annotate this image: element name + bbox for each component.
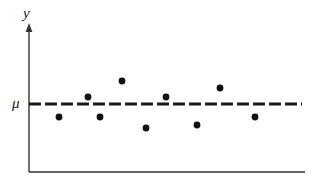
plot-canvas	[0, 0, 320, 185]
data-point	[119, 78, 126, 85]
data-point	[143, 125, 150, 132]
data-point	[163, 94, 170, 101]
data-point	[97, 114, 104, 121]
scatter-plot-figure: y μ	[0, 0, 320, 185]
data-point	[217, 85, 224, 92]
mu-tick-label: μ	[12, 96, 20, 111]
y-axis-arrowhead-icon	[26, 23, 33, 32]
y-axis-label: y	[23, 6, 30, 21]
data-point	[56, 114, 63, 121]
data-point	[194, 122, 201, 129]
data-point	[252, 114, 259, 121]
data-point	[85, 94, 92, 101]
